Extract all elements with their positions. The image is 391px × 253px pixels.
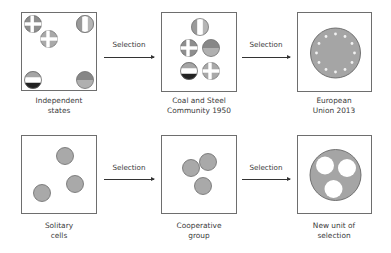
flag-vertical-tricolor-icon (76, 16, 93, 33)
stage-label-line2: selection (279, 231, 389, 241)
coal-steel-flags (162, 13, 238, 93)
stage-label-line1: Independent (4, 96, 114, 106)
cell-icon (67, 176, 84, 193)
stage-box-european-union (297, 12, 372, 92)
stage-label-line2: Community 1950 (144, 106, 254, 116)
flag-cross-icon (25, 16, 42, 33)
stage-box-coal-steel (161, 12, 237, 92)
flag-horizontal-tricolor-icon (181, 62, 198, 79)
cell-icon (34, 185, 51, 202)
arrow-right-icon (242, 57, 290, 58)
stage-label: European Union 2013 (279, 96, 389, 116)
solitary-cells (22, 136, 98, 215)
new-unit-icon (298, 136, 373, 215)
cell-icon (57, 148, 74, 165)
stage-label-line2: group (144, 231, 254, 241)
stage-label-line2: states (4, 106, 114, 116)
inner-cell-icon (325, 180, 343, 198)
stage-label-line1: Coal and Steel (144, 96, 254, 106)
stage-label: Coal and Steel Community 1950 (144, 96, 254, 116)
flag-horizontal-tricolor-icon (25, 71, 42, 88)
stage-label: New unit of selection (279, 221, 389, 241)
stage-label: Solitary cells (4, 221, 114, 241)
stage-box-independent-states (21, 12, 97, 91)
stage-label-line1: Cooperative (144, 221, 254, 231)
flag-two-tone-icon (203, 40, 220, 57)
flag-cross-light-icon (203, 63, 220, 80)
cooperative-cells (162, 136, 238, 215)
arrow-right-icon (242, 179, 290, 180)
arrow-label: Selection (94, 40, 164, 49)
flag-vertical-tricolor-icon (191, 19, 208, 36)
arrow-right-icon (104, 179, 154, 180)
inner-cell-icon (316, 157, 334, 175)
stage-label: Cooperative group (144, 221, 254, 241)
cell-icon (195, 178, 212, 195)
eu-circle-icon (298, 13, 373, 93)
inner-cell-icon (338, 159, 356, 177)
stage-label: Independent states (4, 96, 114, 116)
flag-cross-icon (181, 40, 198, 57)
flag-cross-light-icon (41, 31, 58, 48)
stage-label-line1: European (279, 96, 389, 106)
stage-label-line2: Union 2013 (279, 106, 389, 116)
arrow-label: Selection (231, 40, 301, 49)
arrow-right-icon (104, 57, 154, 58)
cell-icon (200, 154, 217, 171)
cell-icon (183, 160, 200, 177)
flag-two-tone-icon (77, 72, 94, 89)
stage-label-line1: Solitary (4, 221, 114, 231)
arrow-label: Selection (94, 163, 164, 172)
stage-box-cooperative-group (161, 135, 237, 214)
independent-states-flags (22, 13, 98, 92)
arrow-label: Selection (231, 163, 301, 172)
stage-box-new-unit (297, 135, 372, 214)
stage-label-line1: New unit of (279, 221, 389, 231)
stage-label-line2: cells (4, 231, 114, 241)
stage-box-solitary-cells (21, 135, 97, 214)
